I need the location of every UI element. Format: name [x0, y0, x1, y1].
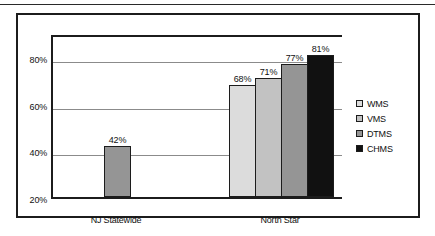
bar-label-ns-vms: 71% — [260, 67, 277, 77]
legend-item-chms[interactable]: CHMS — [356, 141, 414, 156]
legend-swatch-chms — [356, 145, 363, 152]
legend-item-dtms[interactable]: DTMS — [356, 126, 414, 141]
bar-north-star-chms[interactable]: 81% — [307, 55, 334, 197]
chart-frame: 80% 60% 40% 20% 42% 68% 71% 77% 81% NJ S… — [16, 13, 420, 218]
y-tick-20: 20% — [30, 195, 47, 205]
bar-north-star-dtms[interactable]: 77% — [281, 64, 308, 197]
y-axis-labels: 80% 60% 40% 20% — [16, 35, 47, 199]
bar-north-star-vms[interactable]: 71% — [255, 78, 282, 197]
chart-legend: WMS VMS DTMS CHMS — [356, 96, 414, 156]
bar-label-ns-dtms: 77% — [286, 53, 303, 63]
bar-label-ns-wms: 68% — [234, 74, 251, 84]
bar-label-nj-dtms: 42% — [109, 135, 126, 145]
category-label-north-star: North Star — [260, 215, 299, 225]
plot-area: 42% 68% 71% 77% 81% — [51, 35, 342, 199]
legend-swatch-vms — [356, 115, 363, 122]
y-tick-40: 40% — [30, 148, 47, 158]
legend-label-wms: WMS — [367, 99, 388, 109]
page-top-rule — [0, 4, 435, 5]
y-tick-60: 60% — [30, 102, 47, 112]
legend-label-chms: CHMS — [367, 144, 393, 154]
y-tick-80: 80% — [30, 55, 47, 65]
legend-item-wms[interactable]: WMS — [356, 96, 414, 111]
bar-nj-statewide-dtms[interactable]: 42% — [104, 146, 131, 197]
legend-swatch-dtms — [356, 130, 363, 137]
bar-label-ns-chms: 81% — [312, 44, 329, 54]
legend-swatch-wms — [356, 100, 363, 107]
legend-label-vms: VMS — [367, 114, 386, 124]
bar-north-star-wms[interactable]: 68% — [229, 85, 256, 197]
legend-label-dtms: DTMS — [367, 129, 392, 139]
legend-item-vms[interactable]: VMS — [356, 111, 414, 126]
category-label-nj-statewide: NJ Statewide — [91, 215, 142, 225]
